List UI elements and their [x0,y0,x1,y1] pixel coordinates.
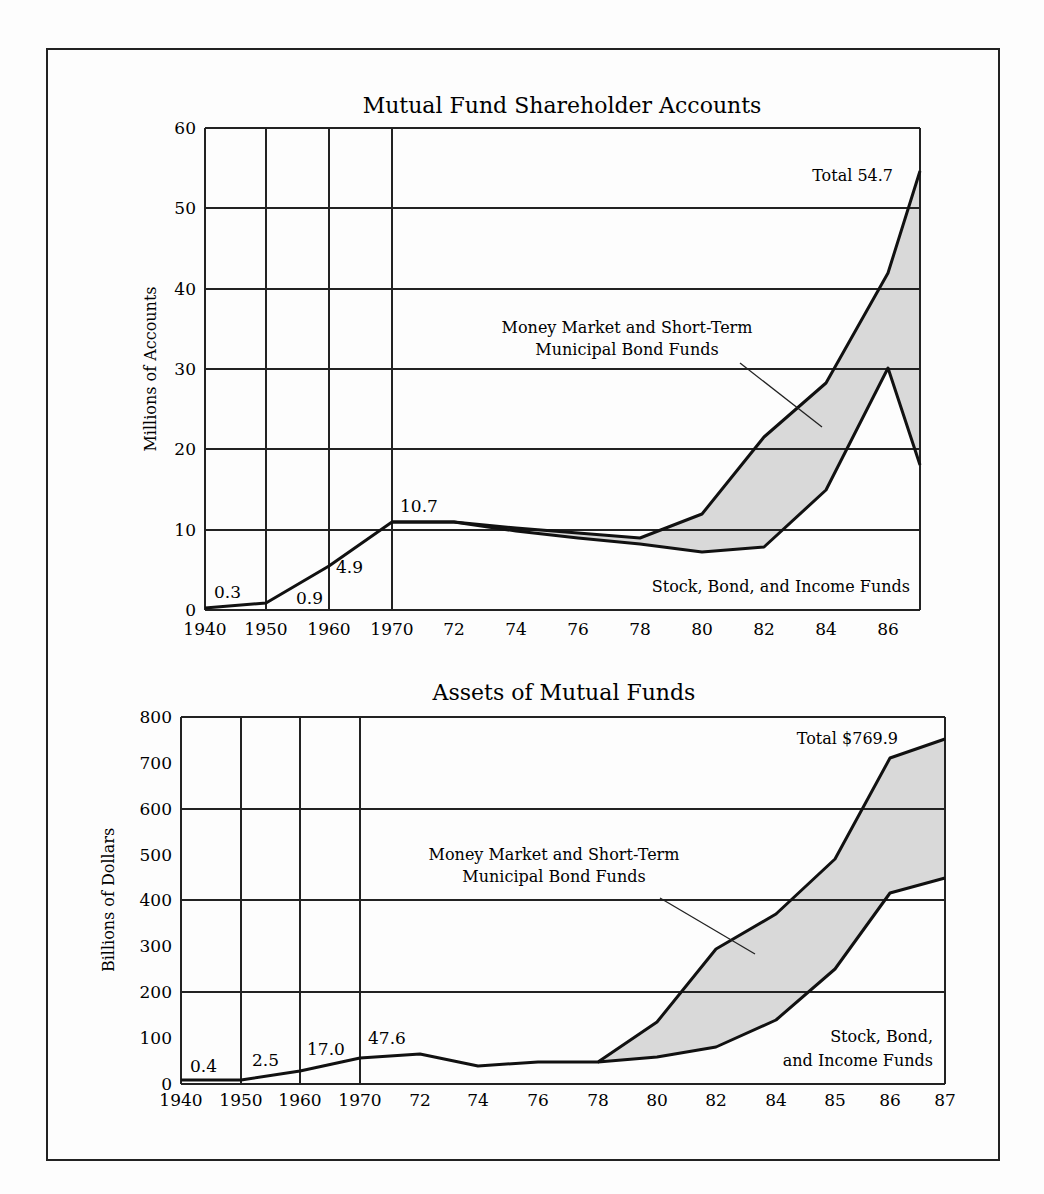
x-tick: 74 [467,1090,489,1110]
x-tick: 85 [824,1090,846,1110]
assets-mm-leader [660,898,755,954]
y-tick: 300 [140,936,172,956]
y-tick: 600 [140,799,172,819]
point-label: 0.4 [190,1056,217,1076]
x-tick: 82 [753,619,775,639]
y-tick: 500 [140,845,172,865]
y-tick: 10 [174,520,196,540]
x-tick: 1950 [244,619,287,639]
point-label: 0.9 [296,588,323,608]
accounts-point-labels: 0.3 0.9 4.9 10.7 [214,496,438,608]
x-tick: 84 [815,619,837,639]
x-tick: 80 [691,619,713,639]
x-tick: 80 [646,1090,668,1110]
assets-stock-annotation-line2: and Income Funds [783,1051,933,1070]
x-tick: 1960 [278,1090,321,1110]
accounts-mm-annotation-line1: Money Market and Short-Term [502,318,753,337]
x-tick: 82 [705,1090,727,1110]
x-tick: 1960 [307,619,350,639]
x-tick: 1950 [219,1090,262,1110]
x-tick: 72 [409,1090,431,1110]
y-tick: 700 [140,753,172,773]
assets-mm-annotation-line2: Municipal Bond Funds [462,867,645,886]
x-tick: 72 [443,619,465,639]
point-label: 2.5 [252,1050,279,1070]
x-tick: 86 [879,1090,901,1110]
y-tick: 400 [140,890,172,910]
y-tick: 100 [140,1028,172,1048]
y-tick: 20 [174,439,196,459]
point-label: 47.6 [368,1028,406,1048]
assets-total-annotation: Total $769.9 [797,729,898,748]
point-label: 10.7 [400,496,438,516]
x-tick: 78 [629,619,651,639]
x-tick: 74 [505,619,527,639]
accounts-stock-annotation: Stock, Bond, and Income Funds [652,577,910,596]
x-tick: 1940 [183,619,226,639]
accounts-mm-annotation-line2: Municipal Bond Funds [535,340,718,359]
accounts-y-axis: 0 10 20 30 40 50 60 [174,118,196,620]
assets-x-axis: 1940 1950 1960 1970 72 74 76 78 80 82 84… [159,1090,955,1110]
point-label: 17.0 [307,1039,345,1059]
y-tick: 800 [140,707,172,727]
x-tick: 1970 [338,1090,381,1110]
point-label: 0.3 [214,582,241,602]
accounts-total-annotation: Total 54.7 [812,166,893,185]
assets-chart: Assets of Mutual Funds 0 100 200 300 [99,680,956,1110]
x-tick: 76 [567,619,589,639]
accounts-mm-leader [740,363,822,427]
y-tick: 50 [174,198,196,218]
assets-y-axis-label: Billions of Dollars [99,828,118,972]
x-tick: 84 [765,1090,787,1110]
accounts-money-market-area [454,171,920,552]
point-label: 4.9 [336,557,363,577]
x-tick: 1940 [159,1090,202,1110]
assets-mm-annotation-line1: Money Market and Short-Term [429,845,680,864]
x-tick: 86 [877,619,899,639]
assets-stock-annotation-line1: Stock, Bond, [830,1027,933,1046]
accounts-total-line [205,171,920,608]
accounts-x-axis: 1940 1950 1960 1970 72 74 76 78 80 82 84… [183,619,898,639]
x-tick: 87 [934,1090,956,1110]
y-tick: 40 [174,279,196,299]
assets-point-labels: 0.4 2.5 17.0 47.6 [190,1028,406,1076]
accounts-y-axis-label: Millions of Accounts [141,286,160,451]
x-tick: 1970 [370,619,413,639]
y-tick: 200 [140,982,172,1002]
accounts-chart: Mutual Fund Shareholder Accounts [141,93,920,639]
accounts-chart-title: Mutual Fund Shareholder Accounts [363,93,762,118]
y-tick: 0 [185,600,196,620]
figure-canvas: Mutual Fund Shareholder Accounts [0,0,1044,1194]
x-tick: 78 [587,1090,609,1110]
assets-y-axis: 0 100 200 300 400 500 600 700 800 [140,707,172,1094]
assets-chart-title: Assets of Mutual Funds [432,680,696,705]
y-tick: 30 [174,359,196,379]
x-tick: 76 [527,1090,549,1110]
y-tick: 60 [174,118,196,138]
